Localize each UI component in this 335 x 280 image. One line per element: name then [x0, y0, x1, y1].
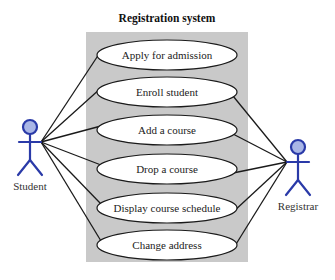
use-case-apply[interactable]: Apply for admission	[97, 40, 237, 70]
actor-label-student: Student	[13, 180, 47, 192]
use-case-enroll[interactable]: Enroll student	[97, 77, 237, 107]
use-case-diagram: Registration system Apply for admissionE…	[0, 0, 335, 280]
use-case-add[interactable]: Add a course	[97, 115, 237, 145]
registrar-stick-figure-icon	[286, 140, 310, 195]
use-case-label: Enroll student	[136, 86, 198, 98]
use-case-display[interactable]: Display course schedule	[97, 193, 237, 223]
system-title: Registration system	[119, 12, 216, 25]
use-case-label: Drop a course	[136, 163, 198, 175]
actor-label-registrar: Registrar	[278, 200, 319, 212]
student-stick-figure-icon	[18, 120, 42, 175]
use-case-drop[interactable]: Drop a course	[97, 154, 237, 184]
actor-registrar[interactable]: Registrar	[278, 140, 319, 212]
actor-student[interactable]: Student	[13, 120, 47, 192]
use-case-label: Display course schedule	[114, 202, 221, 214]
use-case-label: Add a course	[138, 124, 196, 136]
use-case-label: Apply for admission	[122, 49, 213, 61]
use-case-label: Change address	[132, 239, 201, 251]
use-case-change[interactable]: Change address	[97, 230, 237, 260]
